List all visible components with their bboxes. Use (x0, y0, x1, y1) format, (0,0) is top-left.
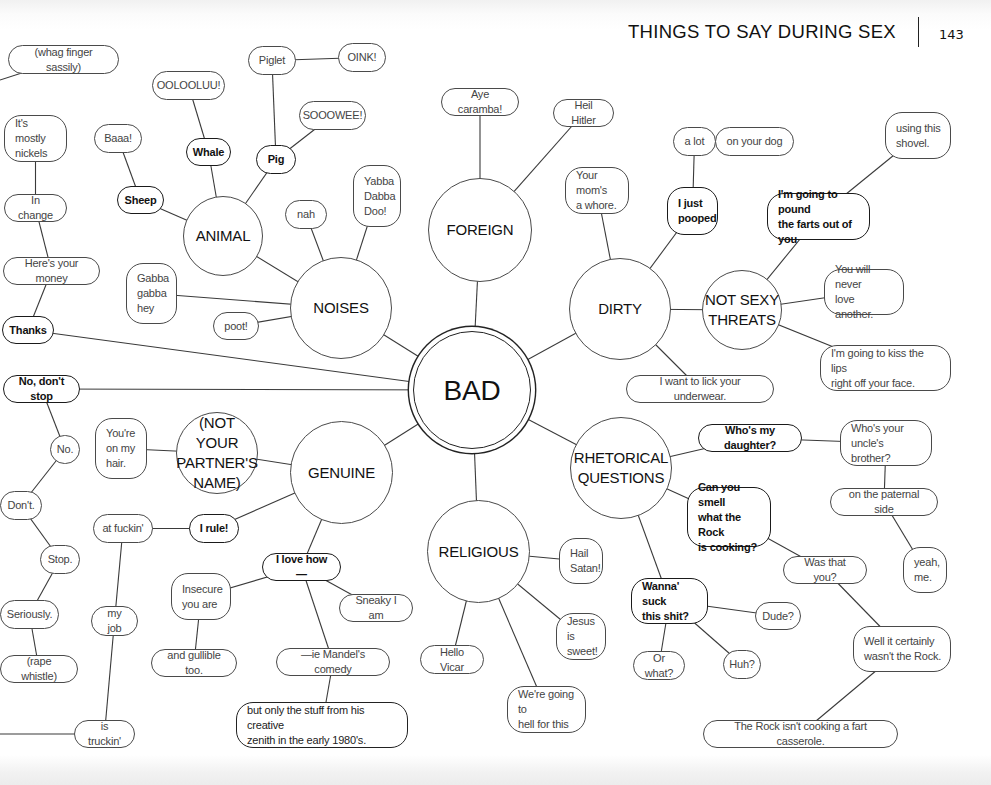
node-label: Well it certainly wasn't the Rock. (864, 634, 941, 664)
phrase-node-ilovehow: I love how— (262, 553, 341, 581)
phrase-node-seriously: Seriously. (0, 600, 59, 629)
node-label: Baaa! (104, 131, 132, 146)
node-label: In change (13, 193, 58, 223)
phrase-node-wellrock: Well it certainly wasn't the Rock. (853, 626, 951, 672)
phrase-node-stop: Stop. (40, 545, 80, 574)
node-label: No, don't stop (12, 374, 71, 404)
node-label: on the paternal side (839, 487, 929, 517)
phrase-node-baaa: Baaa! (94, 124, 142, 153)
phrase-node-wasthat: Was that you? (783, 556, 867, 584)
node-label: Hail Satan! (570, 546, 601, 576)
node-label: —ie Mandel's comedy (285, 647, 381, 677)
node-label: (rape whistle) (9, 654, 69, 684)
phrase-node-insecure: Insecure you are (171, 573, 231, 620)
hub-node-bad: BAD (413, 331, 531, 449)
phrase-node-hellovicar: Hello Vicar (420, 645, 484, 674)
node-label: Dude? (762, 609, 793, 624)
node-label: ANIMAL (196, 226, 251, 246)
node-label: but only the stuff from his creative zen… (247, 703, 399, 748)
category-node-noises: NOISES (290, 257, 392, 359)
phrase-node-daughter: Who's my daughter? (698, 424, 802, 452)
node-label: I love how— (271, 552, 332, 582)
node-label: RELIGIOUS (439, 542, 519, 562)
node-label: You will never love another. (835, 262, 895, 322)
node-label: I just pooped (678, 196, 717, 226)
phrase-node-sooowee: SOOOWEE! (299, 101, 366, 130)
phrase-node-atfuckin: at fuckin' (93, 514, 153, 543)
node-label: Don't. (7, 498, 34, 513)
phrase-node-paternal: on the paternal side (830, 488, 938, 516)
node-label: It's mostly nickels (15, 116, 58, 161)
phrase-node-mostly: It's mostly nickels (4, 115, 67, 162)
phrase-node-yourdog: on your dog (715, 127, 794, 156)
node-label: Heil Hitler (562, 98, 605, 128)
phrase-node-ooloo: OOLOOLUU! (152, 71, 225, 100)
phrase-node-yeahme: yeah, me. (903, 547, 947, 593)
node-label: Who's my daughter? (707, 423, 793, 453)
node-label: Insecure you are (182, 582, 223, 612)
node-label: BAD (444, 383, 501, 398)
phrase-node-shovel: using this shovel. (885, 112, 951, 159)
node-label: Can you smell what the Rock is cooking? (698, 480, 762, 555)
phrase-node-poot: poot! (213, 312, 259, 340)
node-label: DIRTY (598, 299, 642, 319)
node-label: using this shovel. (896, 121, 940, 151)
phrase-node-inchange: In change (4, 194, 67, 222)
phrase-node-hail: Hail Satan! (559, 538, 603, 584)
phrase-node-mandel: —ie Mandel's comedy (276, 648, 390, 676)
node-label: Stop. (48, 552, 73, 567)
phrase-node-piglet: Piglet (248, 46, 296, 75)
phrase-node-gabba: Gabba gabba hey (126, 263, 177, 324)
phrase-node-nodontstop: No, don't stop (3, 375, 80, 403)
phrase-node-yabba: Yabba Dabba Doo! (353, 165, 401, 227)
phrase-node-rape: (rape whistle) (0, 655, 78, 683)
phrase-node-rocksmell: Can you smell what the Rock is cooking? (687, 487, 771, 547)
phrase-node-truckin: is truckin' (74, 720, 135, 748)
phrase-node-whag: (whag finger sassily) (8, 45, 119, 74)
node-label: OOLOOLUU! (157, 78, 221, 93)
phrase-node-jesus: Jesus is sweet! (556, 613, 606, 660)
node-label: FOREIGN (447, 220, 514, 240)
edge-bad-nodontstop (42, 389, 473, 390)
node-label: Jesus is sweet! (567, 614, 598, 659)
node-label: Here's your money (12, 256, 91, 286)
phrase-node-mom: Your mom's a whore. (565, 167, 629, 214)
phrase-node-sheep: Sheep (117, 186, 164, 214)
node-label: at fuckin' (102, 521, 143, 536)
phrase-node-myjob: my job (91, 606, 138, 636)
node-label: GENUINE (308, 463, 375, 483)
node-label: my job (100, 606, 129, 636)
category-node-dirty: DIRTY (569, 258, 671, 360)
category-node-threats: NOT SEXY THREATS (702, 270, 782, 350)
phrase-node-gullible: and gullible too. (151, 649, 237, 677)
phrase-node-whale: Whale (186, 138, 231, 166)
node-label: and gullible too. (160, 648, 228, 678)
node-label: poot! (224, 319, 247, 334)
node-label: Yabba Dabba Doo! (364, 174, 395, 219)
phrase-node-thanks: Thanks (2, 316, 54, 344)
node-label: We're going to hell for this (518, 687, 577, 732)
node-label: (NOT YOUR PARTNER'S NAME) (176, 413, 257, 493)
phrase-node-hairs: You're on my hair. (95, 418, 147, 479)
node-label: Seriously. (7, 607, 52, 622)
phrase-node-nah: nah (285, 200, 327, 229)
category-node-animal: ANIMAL (183, 196, 263, 276)
phrase-node-pig: Pig (256, 145, 296, 174)
node-label: (whag finger sassily) (17, 45, 110, 75)
node-label: I rule! (200, 521, 229, 536)
node-label: Sneaky I am (348, 593, 404, 623)
node-label: Hello Vicar (429, 645, 475, 675)
phrase-node-wannasuck: Wanna' suck this shit? (631, 578, 708, 624)
node-label: Whale (193, 145, 224, 160)
node-label: SOOOWEE! (303, 108, 363, 123)
phrase-node-uncle: Who's your uncle's brother? (840, 420, 932, 466)
phrase-node-hitler: Heil Hitler (553, 99, 614, 127)
node-label: I'm going to kiss the lips right off you… (831, 346, 942, 391)
node-label: Aye caramba! (450, 87, 510, 117)
phrase-node-neverlove: You will never love another. (824, 269, 904, 315)
phrase-node-dont: Don't. (0, 491, 42, 520)
node-label: nah (297, 207, 315, 222)
category-node-genuine: GENUINE (290, 421, 393, 524)
category-node-notpartner: (NOT YOUR PARTNER'S NAME) (176, 412, 258, 494)
phrase-node-irule: I rule! (189, 514, 239, 543)
